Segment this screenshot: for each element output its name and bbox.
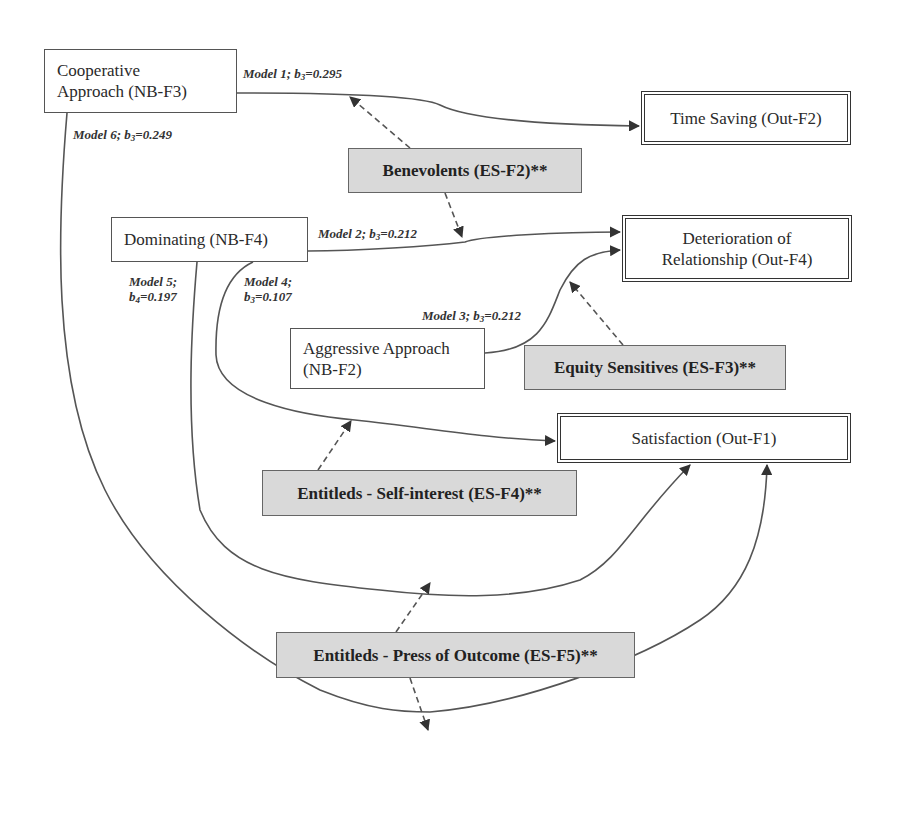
node-benevolents: Benevolents (ES-F2)** bbox=[348, 148, 582, 193]
node-label: Satisfaction (Out-F1) bbox=[632, 428, 777, 449]
moderator-arrow-es-f5-up bbox=[396, 583, 430, 632]
arrow-model-1 bbox=[237, 93, 639, 126]
node-label: Time Saving (Out-F2) bbox=[670, 108, 821, 129]
label-model-3: Model 3; b3=0.212 bbox=[422, 308, 521, 327]
node-time-saving: Time Saving (Out-F2) bbox=[641, 91, 851, 145]
node-label-line2: Relationship (Out-F4) bbox=[662, 249, 813, 270]
node-aggressive-approach: Aggressive Approach (NB-F2) bbox=[290, 328, 485, 389]
node-label: Benevolents (ES-F2)** bbox=[383, 160, 548, 181]
node-equity-sensitives: Equity Sensitives (ES-F3)** bbox=[524, 345, 786, 390]
node-label: Entitleds - Self-interest (ES-F4)** bbox=[297, 483, 542, 504]
label-model-5: Model 5; b4=0.197 bbox=[129, 274, 177, 308]
node-satisfaction: Satisfaction (Out-F1) bbox=[557, 413, 851, 463]
arrow-model-3 bbox=[485, 250, 620, 353]
node-label: Equity Sensitives (ES-F3)** bbox=[554, 357, 756, 378]
label-model-6: Model 6; b3=0.249 bbox=[73, 127, 172, 146]
moderator-arrow-es-f2-up bbox=[350, 97, 410, 148]
node-label: Entitleds - Press of Outcome (ES-F5)** bbox=[313, 645, 597, 666]
label-model-4: Model 4; b3=0.107 bbox=[244, 274, 292, 308]
node-dominating: Dominating (NB-F4) bbox=[111, 217, 308, 262]
node-label-line1: Aggressive Approach bbox=[303, 338, 450, 359]
label-model-2: Model 2; b3=0.212 bbox=[318, 226, 417, 245]
node-label-line2: (NB-F2) bbox=[303, 359, 450, 380]
node-label-line1: Cooperative bbox=[57, 60, 187, 81]
node-entitleds-self-interest: Entitleds - Self-interest (ES-F4)** bbox=[262, 470, 577, 516]
node-cooperative-approach: Cooperative Approach (NB-F3) bbox=[44, 49, 237, 113]
node-entitleds-press-of-outcome: Entitleds - Press of Outcome (ES-F5)** bbox=[276, 632, 635, 678]
moderator-arrow-es-f3 bbox=[570, 282, 623, 345]
node-label-line2: Approach (NB-F3) bbox=[57, 81, 187, 102]
node-deterioration-of-relationship: Deterioration of Relationship (Out-F4) bbox=[622, 215, 852, 282]
label-model-1: Model 1; b3=0.295 bbox=[243, 66, 342, 85]
moderator-arrow-es-f4 bbox=[318, 421, 351, 470]
node-label: Dominating (NB-F4) bbox=[124, 229, 268, 250]
moderator-arrow-es-f5-down bbox=[410, 678, 428, 730]
node-label-line1: Deterioration of bbox=[662, 228, 813, 249]
moderator-arrow-es-f2-down bbox=[445, 193, 462, 237]
